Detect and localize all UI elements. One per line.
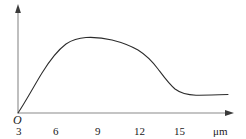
x-tick-label-3: 3 [16,126,22,137]
x-tick-label-15: 15 [174,126,185,137]
chart-figure: O 3 6 9 12 15 μm [0,0,246,139]
plot-canvas [0,0,246,139]
data-curve-group [18,37,228,113]
x-tick-label-9: 9 [95,126,101,137]
data-curve [18,37,228,113]
x-tick-label-12: 12 [134,126,145,137]
axes-group [15,4,234,116]
y-axis-arrowhead [15,4,21,13]
x-axis-unit-label: μm [213,126,227,137]
x-tick-label-6: 6 [53,126,59,137]
x-axis-arrowhead [225,110,234,116]
